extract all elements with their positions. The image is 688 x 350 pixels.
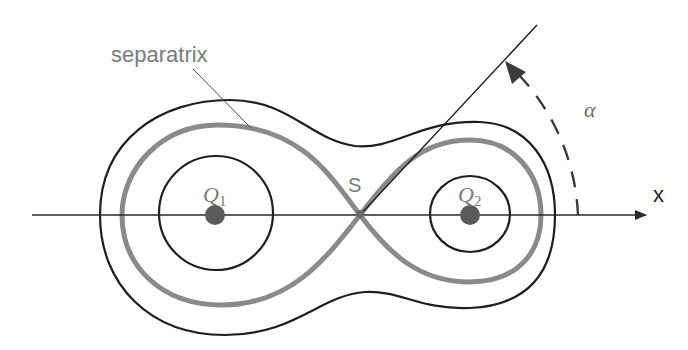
q2-subscript: 2	[474, 193, 482, 209]
q1-label: Q1	[203, 182, 226, 209]
separatrix-label: separatrix	[111, 42, 208, 67]
angle-label: α	[584, 97, 596, 122]
separatrix-leader-line	[193, 69, 251, 128]
direction-line	[360, 25, 537, 215]
angle-arc-dashed	[519, 75, 578, 215]
q2-label: Q2	[458, 182, 481, 209]
saddle-label: S	[348, 174, 361, 196]
x-axis-label: x	[653, 182, 664, 207]
saddle-point-dot	[356, 210, 364, 218]
q1-subscript: 1	[219, 193, 227, 209]
diagram-canvas: separatrix S Q1 Q2 x α	[0, 0, 688, 350]
